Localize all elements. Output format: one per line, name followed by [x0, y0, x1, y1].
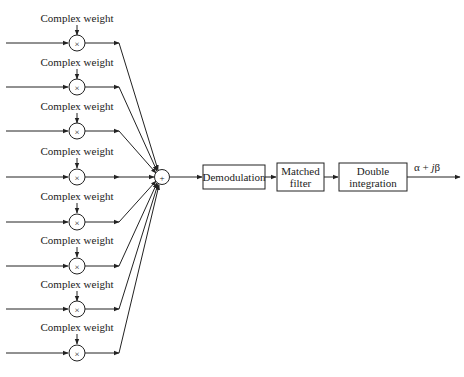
complex-weight-label: Complex weight: [40, 56, 113, 68]
complex-weight-label: Complex weight: [40, 190, 113, 202]
block-diagram: Complex weight × Complex weight × Comple…: [0, 0, 464, 377]
complex-weight-label: Complex weight: [40, 234, 113, 246]
double-integration-label-line1: Double: [357, 165, 390, 177]
complex-weight-label: Complex weight: [40, 100, 113, 112]
plus-icon: +: [159, 173, 164, 183]
summer-node: +: [155, 170, 170, 185]
output-label: α + jβ: [414, 161, 441, 173]
multiply-icon: ×: [74, 305, 79, 315]
complex-weight-label: Complex weight: [40, 278, 113, 290]
multiply-icon: ×: [74, 83, 79, 93]
complex-weight-label: Complex weight: [40, 145, 113, 157]
multiply-icon: ×: [74, 349, 79, 359]
multiply-icon: ×: [74, 173, 79, 183]
double-integration-block: Double integration: [339, 163, 407, 191]
demodulation-label: Demodulation: [203, 171, 266, 183]
branch-5: Complex weight ×: [6, 181, 156, 230]
multiply-icon: ×: [74, 127, 79, 137]
branch-3: Complex weight ×: [6, 100, 156, 173]
complex-weight-label: Complex weight: [40, 321, 113, 333]
matched-filter-label-line1: Matched: [281, 165, 320, 177]
branch-8: Complex weight ×: [6, 185, 159, 361]
matched-filter-block: Matched filter: [277, 163, 324, 191]
complex-weight-label: Complex weight: [40, 12, 113, 24]
matched-filter-label-line2: filter: [290, 177, 312, 189]
demodulation-block: Demodulation: [203, 165, 266, 189]
branch-4: Complex weight ×: [6, 145, 154, 185]
multiply-icon: ×: [74, 39, 79, 49]
multiply-icon: ×: [74, 218, 79, 228]
multiply-icon: ×: [74, 262, 79, 272]
double-integration-label-line2: integration: [349, 177, 397, 189]
